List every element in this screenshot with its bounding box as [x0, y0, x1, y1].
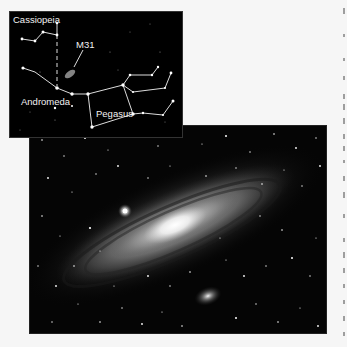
inset-star-chart: Cassiopeia M31 Andromeda Pegasus: [10, 12, 182, 137]
cassiopeia-label: Cassiopeia: [13, 15, 60, 25]
pegasus-label: Pegasus: [96, 109, 133, 119]
adjacent-page-text-fragments: [341, 0, 347, 347]
m31-label: M31: [76, 40, 94, 50]
andromeda-label: Andromeda: [21, 97, 70, 107]
andromeda-galaxy-photo: [30, 126, 326, 333]
